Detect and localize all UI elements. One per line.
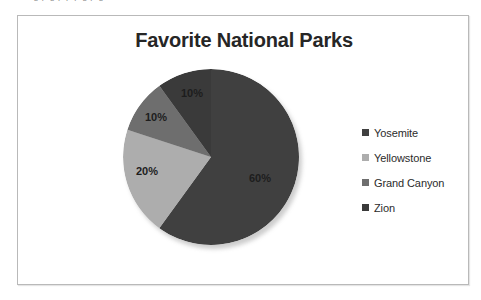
pie-svg: [123, 69, 299, 245]
legend-swatch-icon: [362, 129, 369, 136]
legend-swatch-icon: [362, 204, 369, 211]
legend-item-zion[interactable]: Zion: [362, 195, 470, 220]
legend-label: Yellowstone: [374, 152, 431, 164]
pie-chart-plot-area[interactable]: 60% 20% 10% 10%: [30, 58, 330, 273]
legend-label: Zion: [374, 202, 395, 214]
chart-legend[interactable]: Yosemite Yellowstone Grand Canyon Zion: [362, 120, 470, 220]
legend-label: Yosemite: [374, 127, 418, 139]
pie-graphic[interactable]: 60% 20% 10% 10%: [123, 69, 299, 245]
slice-label-yosemite: 60%: [249, 172, 271, 184]
chart-frame[interactable]: Favorite National Parks 6: [17, 15, 469, 285]
slice-label-yellowstone: 20%: [136, 165, 158, 177]
legend-item-yosemite[interactable]: Yosemite: [362, 120, 470, 145]
legend-item-yellowstone[interactable]: Yellowstone: [362, 145, 470, 170]
screenshot-root: ing p g p p p g p g Favorite National Pa…: [0, 0, 481, 300]
pie-slices[interactable]: [123, 69, 299, 245]
cropped-text-fragment: ing p g p p p g p g: [0, 0, 481, 11]
legend-swatch-icon: [362, 154, 369, 161]
chart-title: Favorite National Parks: [18, 29, 470, 52]
legend-swatch-icon: [362, 179, 369, 186]
legend-label: Grand Canyon: [374, 177, 444, 189]
slice-label-zion: 10%: [181, 87, 203, 99]
legend-item-grand-canyon[interactable]: Grand Canyon: [362, 170, 470, 195]
slice-label-grand-canyon: 10%: [145, 111, 167, 123]
